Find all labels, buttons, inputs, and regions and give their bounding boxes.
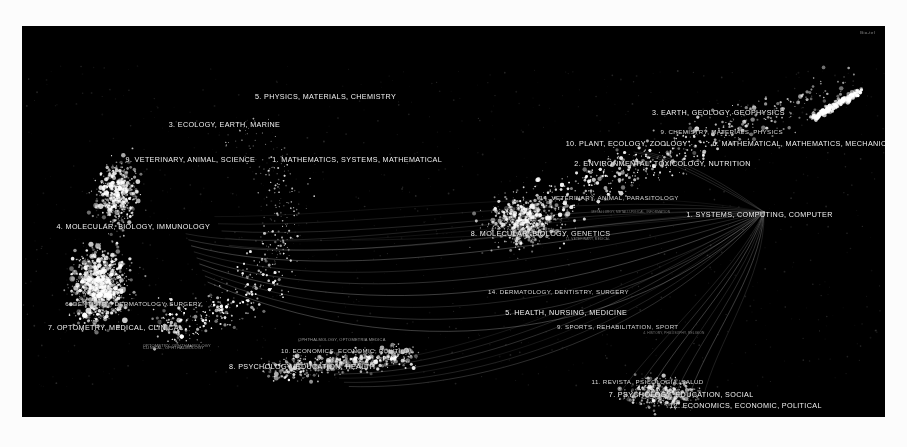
science-map-figure: Bio-tel 5. PHYSICS, MATERIALS, CHEMISTRY… — [22, 26, 885, 417]
science-map-canvas — [22, 26, 885, 417]
figure-watermark: Bio-tel — [860, 30, 875, 35]
